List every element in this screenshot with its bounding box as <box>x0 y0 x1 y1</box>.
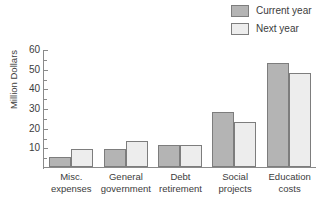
x-category-label-line: Misc. <box>44 171 99 183</box>
chart-legend: Current year Next year <box>231 4 312 35</box>
y-tick-label: 60 <box>29 45 40 55</box>
legend-label-next-year: Next year <box>256 23 299 35</box>
x-category-label-line: expenses <box>44 183 99 195</box>
x-category-label: Debtretirement <box>153 171 208 195</box>
x-category-label-line: General <box>99 171 154 183</box>
bar-group <box>153 50 207 167</box>
legend-swatch-current-year <box>231 5 249 17</box>
y-tick-label: 10 <box>29 143 40 153</box>
bar-next-year[interactable] <box>71 149 93 167</box>
x-category-label: Educationcosts <box>262 171 317 195</box>
legend-item-current-year: Current year <box>231 4 312 17</box>
x-category-label-line: Social <box>208 171 263 183</box>
bar-current-year[interactable] <box>158 145 180 167</box>
bar-next-year[interactable] <box>180 145 202 167</box>
y-tick-label: 30 <box>29 104 40 114</box>
legend-swatch-next-year <box>231 23 249 35</box>
y-tick-label: 50 <box>29 65 40 75</box>
bar-chart: Current year Next year Million Dollars 1… <box>0 0 324 201</box>
bar-current-year[interactable] <box>104 149 126 167</box>
bar-group <box>262 50 316 167</box>
bar-group <box>98 50 152 167</box>
bar-next-year[interactable] <box>126 141 148 167</box>
x-category-label-line: costs <box>262 183 317 195</box>
bar-groups <box>44 50 316 167</box>
x-category-label-line: government <box>99 183 154 195</box>
x-axis-category-labels: Misc.expensesGeneralgovernmentDebtretire… <box>44 171 317 195</box>
y-tick-label: 40 <box>29 84 40 94</box>
x-category-label: Socialprojects <box>208 171 263 195</box>
bar-group <box>207 50 261 167</box>
x-category-label-line: retirement <box>153 183 208 195</box>
x-category-label-line: projects <box>208 183 263 195</box>
legend-item-next-year: Next year <box>231 22 312 35</box>
bar-group <box>44 50 98 167</box>
x-category-label-line: Debt <box>153 171 208 183</box>
bar-current-year[interactable] <box>49 157 71 167</box>
plot-area: 102030405060 <box>43 50 316 168</box>
legend-label-current-year: Current year <box>256 5 312 17</box>
bar-current-year[interactable] <box>212 112 234 167</box>
y-axis-title: Million Dollars <box>8 37 19 123</box>
bar-next-year[interactable] <box>289 73 311 167</box>
x-category-label: Generalgovernment <box>99 171 154 195</box>
x-category-label-line: Education <box>262 171 317 183</box>
x-category-label: Misc.expenses <box>44 171 99 195</box>
x-axis-line <box>43 167 316 168</box>
bar-next-year[interactable] <box>234 122 256 167</box>
bar-current-year[interactable] <box>267 63 289 167</box>
y-tick-label: 20 <box>29 124 40 134</box>
